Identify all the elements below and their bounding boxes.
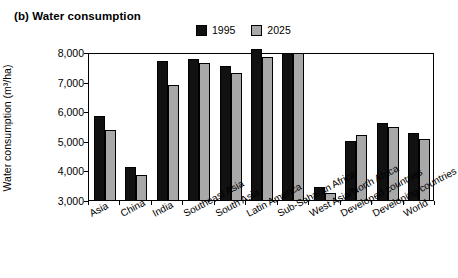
bar-2025 <box>168 85 179 200</box>
bar-group <box>309 54 340 200</box>
legend-label-1995: 1995 <box>212 25 235 36</box>
bar-group <box>246 54 277 200</box>
legend-swatch-2025 <box>251 25 262 36</box>
x-tick-mark <box>119 201 120 205</box>
bar-group <box>89 54 120 200</box>
bar-2025 <box>231 73 242 200</box>
bar-1995 <box>188 59 199 200</box>
bar-group <box>404 54 435 200</box>
bar-1995 <box>314 187 325 200</box>
bar-1995 <box>251 49 262 200</box>
bar-group <box>152 54 183 200</box>
bar-group <box>372 54 403 200</box>
bar-1995 <box>94 116 105 200</box>
x-tick-mark <box>182 201 183 205</box>
legend-entry-1995: 1995 <box>196 25 235 36</box>
bar-2025 <box>105 130 116 200</box>
bar-group <box>183 54 214 200</box>
bars-layer <box>89 54 433 200</box>
bar-group <box>120 54 151 200</box>
bar-1995 <box>157 61 168 200</box>
bar-2025 <box>356 135 367 200</box>
x-tick-mark <box>340 201 341 205</box>
bar-group <box>215 54 246 200</box>
bar-2025 <box>388 127 399 200</box>
x-tick-mark <box>308 201 309 205</box>
bar-1995 <box>408 133 419 200</box>
bar-2025 <box>136 175 147 200</box>
x-tick-mark <box>403 201 404 205</box>
bar-1995 <box>220 66 231 200</box>
y-axis-tick-marks <box>0 53 88 201</box>
x-tick-mark <box>245 201 246 205</box>
x-tick-mark <box>277 201 278 205</box>
x-tick-mark <box>88 201 89 205</box>
x-tick-mark <box>151 201 152 205</box>
plot-area <box>88 53 434 201</box>
bar-1995 <box>282 53 293 200</box>
bar-1995 <box>125 167 136 200</box>
x-tick-mark <box>371 201 372 205</box>
bar-2025 <box>293 53 304 200</box>
x-axis-tick-marks <box>88 201 434 206</box>
legend-entry-2025: 2025 <box>251 25 290 36</box>
chart-legend: 1995 2025 <box>196 25 291 36</box>
bar-group <box>341 54 372 200</box>
bar-2025 <box>199 63 210 200</box>
bar-2025 <box>325 193 336 200</box>
legend-swatch-1995 <box>196 25 207 36</box>
legend-label-2025: 2025 <box>267 25 290 36</box>
bar-2025 <box>419 139 430 200</box>
x-tick-mark <box>434 201 435 205</box>
bar-2025 <box>262 57 273 200</box>
bar-group <box>278 54 309 200</box>
bar-1995 <box>345 141 356 200</box>
chart-title: (b) Water consumption <box>14 10 141 22</box>
x-tick-mark <box>214 201 215 205</box>
bar-1995 <box>377 123 388 200</box>
